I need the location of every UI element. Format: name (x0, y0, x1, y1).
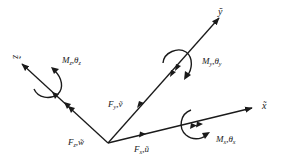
y-moment-double-arrowhead-icon (170, 64, 181, 77)
force-z-label: Fz,w̃ (68, 138, 84, 148)
force-x-label: Fx,ũ (134, 145, 149, 155)
z-axis-label: z̃ (11, 55, 21, 59)
z-axis (22, 64, 108, 143)
moment-x-label: Mx,θx (216, 135, 236, 145)
force-y-label: Fy,ṽ (108, 100, 122, 110)
x-axis-label: x̃ (262, 101, 266, 111)
moment-y-label: My,θy (202, 57, 222, 67)
moment-z-label: Mz,θz (62, 56, 81, 66)
x-force-arrowhead-icon (139, 132, 146, 138)
y-axis-label: ỹ (218, 7, 222, 17)
coordinate-frame-diagram (0, 0, 285, 162)
z-moment-arc-icon (34, 71, 62, 97)
